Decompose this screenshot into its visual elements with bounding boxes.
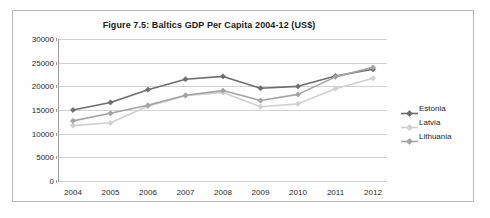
data-point-marker <box>70 107 75 112</box>
chart-title: Figure 7.5: Baltics GDP Per Capita 2004-… <box>13 20 405 30</box>
x-axis-tick-label: 2011 <box>327 188 344 197</box>
y-axis-tick-label: 10000 <box>32 129 54 138</box>
x-axis-tick-label: 2008 <box>214 188 232 197</box>
data-point-marker <box>258 104 263 109</box>
series-lines <box>59 39 387 181</box>
legend-item-latvia: Latvia <box>401 115 475 129</box>
data-point-marker <box>370 76 375 81</box>
data-point-marker <box>295 92 300 97</box>
y-axis-tick-mark <box>56 38 57 41</box>
data-point-marker <box>295 101 300 106</box>
x-axis-tick-label: 2012 <box>364 188 382 197</box>
y-axis-tick-label: 30000 <box>32 35 54 44</box>
y-axis-tick-mark <box>56 109 57 112</box>
y-axis-tick-mark <box>56 156 57 159</box>
x-axis-tick-label: 2010 <box>289 188 307 197</box>
y-axis-tick-label: 0 <box>50 177 54 186</box>
x-axis-tick-label: 2006 <box>139 188 157 197</box>
data-point-marker <box>183 93 188 98</box>
x-axis-tick-label: 2004 <box>64 188 82 197</box>
legend-label: Estonia <box>419 104 446 113</box>
y-axis-tick-label: 5000 <box>36 153 54 162</box>
data-point-marker <box>333 86 338 91</box>
plot-area: 050001000015000200002500030000 200420052… <box>58 39 387 182</box>
diamond-marker-icon <box>401 132 418 141</box>
data-point-marker <box>258 86 263 91</box>
y-axis-tick-mark <box>56 62 57 65</box>
series-line <box>73 78 373 125</box>
y-axis-tick-label: 15000 <box>32 106 54 115</box>
legend-item-estonia: Estonia <box>401 101 475 115</box>
diamond-marker-icon <box>401 104 418 113</box>
y-axis-tick-label: 25000 <box>32 58 54 67</box>
data-point-marker <box>108 111 113 116</box>
y-axis-tick-mark <box>56 85 57 88</box>
data-point-marker <box>295 84 300 89</box>
data-point-marker <box>258 98 263 103</box>
legend-label: Lithuania <box>419 132 451 141</box>
x-axis-tick-label: 2007 <box>177 188 195 197</box>
data-point-marker <box>220 74 225 79</box>
y-axis-tick-mark <box>56 133 57 136</box>
y-axis-tick-mark <box>56 180 57 183</box>
gridline <box>59 181 387 182</box>
diamond-marker-icon <box>401 118 418 127</box>
series-latvia <box>70 76 375 129</box>
data-point-marker <box>145 87 150 92</box>
x-axis-tick-label: 2005 <box>102 188 120 197</box>
x-axis-tick-label: 2009 <box>252 188 270 197</box>
data-point-marker <box>108 120 113 125</box>
legend-label: Latvia <box>419 118 440 127</box>
data-point-marker <box>108 100 113 105</box>
y-axis-tick-label: 20000 <box>32 82 54 91</box>
data-point-marker <box>183 77 188 82</box>
figure-frame: Figure 7.5: Baltics GDP Per Capita 2004-… <box>12 10 474 202</box>
legend-item-lithuania: Lithuania <box>401 129 475 143</box>
figure-page: Figure 7.5: Baltics GDP Per Capita 2004-… <box>0 0 490 218</box>
data-point-marker <box>70 118 75 123</box>
chart-legend: EstoniaLatviaLithuania <box>401 101 475 143</box>
